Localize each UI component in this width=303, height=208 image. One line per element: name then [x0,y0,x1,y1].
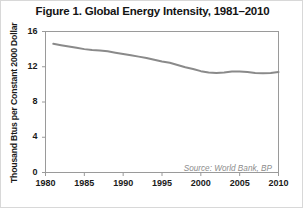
plot-frame [46,32,279,173]
figure-container: Figure 1. Global Energy Intensity, 1981–… [0,0,303,208]
x-tick-label: 2000 [184,178,218,188]
y-tick-label: 8 [20,96,38,106]
source-note: Source: World Bank, BP [184,164,272,173]
x-tick-label: 2005 [223,178,257,188]
y-tick-label: 12 [20,61,38,71]
y-tick-label: 16 [20,26,38,36]
x-tick-label: 1980 [29,178,63,188]
y-tick-label: 0 [20,167,38,177]
x-tick-label: 1985 [67,178,101,188]
x-tick-label: 1990 [106,178,140,188]
x-tick-label: 1995 [145,178,179,188]
plot-frame-rect [46,32,279,173]
x-tick-marks [46,173,279,177]
y-tick-label: 4 [20,131,38,141]
x-tick-label: 2010 [262,178,296,188]
y-tick-marks [42,32,46,173]
